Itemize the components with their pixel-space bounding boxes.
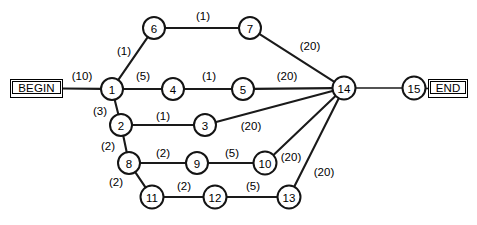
node-6[interactable]: 6 xyxy=(143,17,165,39)
node-4[interactable]: 4 xyxy=(162,78,184,100)
nodes-layer: 123456789101112131415 xyxy=(101,17,426,209)
end-terminal-label: END xyxy=(430,81,466,94)
edge-weight-2-8: (2) xyxy=(101,140,115,152)
edge-2-8 xyxy=(123,135,127,152)
edge-weight-8-9: (2) xyxy=(156,147,170,159)
node-1[interactable]: 1 xyxy=(101,78,123,100)
edge-weight-12-13: (5) xyxy=(246,180,260,192)
node-label-5: 5 xyxy=(240,84,246,96)
node-12[interactable]: 12 xyxy=(204,186,227,209)
node-label-10: 10 xyxy=(259,158,272,170)
node-label-9: 9 xyxy=(194,158,200,170)
edge-weight-2-3: (1) xyxy=(156,110,170,122)
node-11[interactable]: 11 xyxy=(141,186,164,209)
edge-5-14 xyxy=(254,88,334,89)
node-label-3: 3 xyxy=(202,120,208,132)
node-label-2: 2 xyxy=(118,120,124,132)
edge-weight-1-2: (3) xyxy=(93,105,107,117)
node-5[interactable]: 5 xyxy=(232,78,254,100)
node-2[interactable]: 2 xyxy=(110,114,132,136)
node-13[interactable]: 13 xyxy=(278,186,301,209)
node-14[interactable]: 14 xyxy=(333,77,356,100)
begin-terminal: BEGIN xyxy=(10,79,63,98)
edge-weight-11-12: (2) xyxy=(177,180,191,192)
node-15[interactable]: 15 xyxy=(403,77,426,100)
edge-weight-13-14: (20) xyxy=(314,166,335,178)
begin-terminal-label: BEGIN xyxy=(12,81,61,94)
edge-weight-8-11: (2) xyxy=(109,176,123,188)
edge-weight-1-4: (5) xyxy=(136,70,150,82)
node-label-4: 4 xyxy=(170,84,177,96)
edge-3-14 xyxy=(215,91,333,122)
node-label-7: 7 xyxy=(247,23,253,35)
node-label-15: 15 xyxy=(408,83,421,95)
node-7[interactable]: 7 xyxy=(239,17,261,39)
edge-weight-BEGIN-1: (10) xyxy=(72,70,93,82)
end-terminal: END xyxy=(428,79,468,98)
node-label-13: 13 xyxy=(283,192,296,204)
node-label-1: 1 xyxy=(109,84,115,96)
edge-8-11 xyxy=(135,172,146,188)
node-label-8: 8 xyxy=(126,158,132,170)
edge-weight-9-10: (5) xyxy=(225,147,239,159)
edge-weight-7-14: (20) xyxy=(300,40,321,52)
edge-weight-6-7: (1) xyxy=(196,10,210,22)
diagram-canvas: 123456789101112131415 (10)(1)(1)(20)(5)(… xyxy=(0,0,477,225)
edge-weight-4-5: (1) xyxy=(202,70,216,82)
edge-weight-5-14: (20) xyxy=(277,70,298,82)
node-label-6: 6 xyxy=(151,23,157,35)
edge-weight-10-14: (20) xyxy=(281,151,302,163)
edge-1-2 xyxy=(115,99,119,115)
node-10[interactable]: 10 xyxy=(254,152,277,175)
node-label-11: 11 xyxy=(146,192,158,204)
edge-weight-1-6: (1) xyxy=(117,45,131,57)
node-8[interactable]: 8 xyxy=(118,152,140,174)
node-3[interactable]: 3 xyxy=(194,114,216,136)
node-9[interactable]: 9 xyxy=(186,152,208,174)
edge-weight-3-14: (20) xyxy=(241,120,262,132)
node-label-14: 14 xyxy=(338,83,351,95)
network-graph: 123456789101112131415 (10)(1)(1)(20)(5)(… xyxy=(0,0,477,225)
node-label-12: 12 xyxy=(209,192,222,204)
